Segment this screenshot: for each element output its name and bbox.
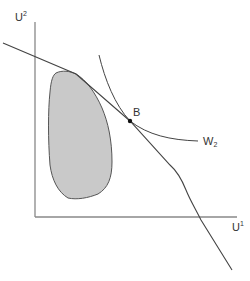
point-b-label: B bbox=[133, 107, 140, 118]
frontier-line bbox=[3, 43, 232, 270]
y-axis-label-superscript: 2 bbox=[23, 10, 27, 17]
point-b-text: B bbox=[133, 106, 140, 118]
point-b-marker bbox=[128, 119, 132, 123]
curve-w2-subscript: 2 bbox=[213, 141, 217, 148]
y-axis-label-base: U bbox=[15, 11, 23, 23]
y-axis-label: U2 bbox=[15, 10, 27, 23]
utility-possibility-region bbox=[49, 71, 113, 199]
social-welfare-curve-w2 bbox=[99, 55, 198, 141]
curve-w2-label: W2 bbox=[203, 136, 217, 148]
x-axis-label-base: U bbox=[232, 221, 240, 233]
curve-w2-base: W bbox=[203, 135, 213, 147]
x-axis-label-superscript: 1 bbox=[240, 220, 244, 227]
x-axis-label: U1 bbox=[232, 220, 244, 233]
